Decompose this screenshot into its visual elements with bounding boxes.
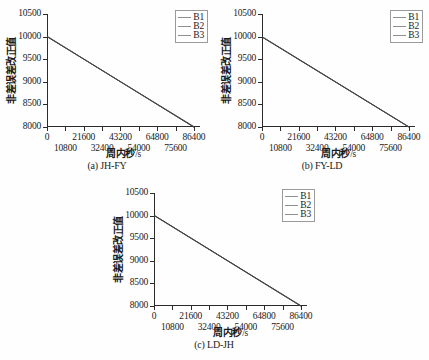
x-tick-label: 21600 bbox=[287, 133, 310, 143]
x-tick-label: 0 bbox=[45, 133, 50, 143]
x-tick-label: 21600 bbox=[72, 133, 95, 143]
x-tick-label: 64800 bbox=[253, 312, 276, 322]
x-tick bbox=[227, 306, 228, 310]
y-tick-label: 8000 bbox=[23, 122, 41, 132]
legend-line-icon bbox=[285, 214, 298, 215]
series-line bbox=[262, 37, 409, 127]
legend-line-icon bbox=[393, 26, 406, 27]
y-tick bbox=[258, 59, 262, 60]
x-tick-label: 64800 bbox=[361, 133, 384, 143]
legend-line-icon bbox=[393, 17, 406, 18]
x-tick bbox=[139, 127, 140, 131]
x-axis-title-a: 周内秒/s bbox=[47, 145, 200, 160]
x-tick bbox=[246, 306, 247, 310]
x-tick-label: 86400 bbox=[182, 133, 205, 143]
y-tick-label: 9000 bbox=[130, 256, 148, 266]
legend-b: B1 B2 B3 bbox=[390, 10, 423, 43]
figure-root: 非差误差改正值 80008500900095001000010500010800… bbox=[0, 0, 429, 360]
legend-label: B3 bbox=[300, 210, 311, 219]
legend-a: B1 B2 B3 bbox=[175, 10, 208, 43]
legend-line-icon bbox=[178, 26, 191, 27]
subfigure-b: 非差误差改正值 80008500900095001000010500010800… bbox=[215, 0, 429, 180]
y-tick bbox=[43, 14, 47, 15]
y-tick-label: 8000 bbox=[130, 301, 148, 311]
x-tick bbox=[299, 127, 300, 131]
y-tick-label: 9500 bbox=[238, 54, 256, 64]
y-tick bbox=[43, 82, 47, 83]
subfigure-a: 非差误差改正值 80008500900095001000010500010800… bbox=[0, 0, 214, 180]
x-tick bbox=[391, 127, 392, 131]
y-tick-label: 10000 bbox=[233, 32, 256, 42]
y-tick-label: 10000 bbox=[125, 211, 148, 221]
y-tick-label: 10500 bbox=[233, 9, 256, 19]
x-tick bbox=[335, 127, 336, 131]
x-tick bbox=[264, 306, 265, 310]
x-tick-label: 0 bbox=[260, 133, 265, 143]
legend-line-icon bbox=[178, 17, 191, 18]
x-tick-label: 0 bbox=[152, 312, 157, 322]
y-tick-label: 9000 bbox=[238, 77, 256, 87]
x-tick bbox=[47, 127, 48, 131]
y-tick bbox=[150, 238, 154, 239]
y-tick bbox=[258, 14, 262, 15]
x-tick-label: 21600 bbox=[179, 312, 202, 322]
x-tick bbox=[172, 306, 173, 310]
y-tick bbox=[43, 59, 47, 60]
y-tick-label: 9500 bbox=[23, 54, 41, 64]
y-tick bbox=[150, 283, 154, 284]
legend-row: B3 bbox=[393, 31, 419, 40]
y-tick-label: 10500 bbox=[18, 9, 41, 19]
y-tick bbox=[43, 104, 47, 105]
x-tick-label: 43200 bbox=[324, 133, 347, 143]
y-tick bbox=[258, 37, 262, 38]
x-tick bbox=[209, 306, 210, 310]
legend-line-icon bbox=[393, 35, 406, 36]
x-tick bbox=[154, 306, 155, 310]
y-tick-label: 9000 bbox=[23, 77, 41, 87]
x-tick bbox=[191, 306, 192, 310]
x-tick bbox=[65, 127, 66, 131]
y-tick bbox=[150, 216, 154, 217]
x-tick bbox=[354, 127, 355, 131]
x-axis-unit-a: /s bbox=[135, 149, 141, 159]
legend-line-icon bbox=[285, 205, 298, 206]
x-tick bbox=[283, 306, 284, 310]
x-tick bbox=[176, 127, 177, 131]
x-tick bbox=[280, 127, 281, 131]
y-tick-label: 10000 bbox=[18, 32, 41, 42]
legend-c: B1 B2 B3 bbox=[282, 189, 315, 222]
x-tick bbox=[301, 306, 302, 310]
x-tick bbox=[194, 127, 195, 131]
caption-a: (a) JH-FY bbox=[0, 160, 214, 171]
y-axis-title-a: 非差误差改正值 bbox=[3, 14, 17, 127]
caption-c: (c) LD-JH bbox=[107, 339, 321, 350]
series-line bbox=[47, 36, 194, 127]
x-axis-unit-b: /s bbox=[350, 149, 356, 159]
y-axis-title-c: 非差误差改正值 bbox=[110, 193, 124, 306]
x-tick bbox=[317, 127, 318, 131]
x-tick bbox=[120, 127, 121, 131]
x-axis-unit-c: /s bbox=[242, 328, 248, 338]
x-tick bbox=[157, 127, 158, 131]
x-tick-label: 43200 bbox=[109, 133, 132, 143]
legend-row: B3 bbox=[178, 31, 204, 40]
y-tick-label: 8500 bbox=[130, 279, 148, 289]
x-tick bbox=[102, 127, 103, 131]
legend-row: B3 bbox=[285, 210, 311, 219]
x-tick-label: 86400 bbox=[289, 312, 312, 322]
y-axis-title-b: 非差误差改正值 bbox=[218, 14, 232, 127]
x-axis-title-c: 周内秒/s bbox=[154, 324, 307, 339]
y-tick bbox=[150, 261, 154, 262]
x-tick bbox=[262, 127, 263, 131]
x-tick-label: 64800 bbox=[146, 133, 169, 143]
x-tick bbox=[84, 127, 85, 131]
y-tick-label: 8500 bbox=[238, 100, 256, 110]
legend-label: B3 bbox=[408, 31, 419, 40]
series-line bbox=[154, 216, 301, 307]
x-axis-title-b: 周内秒/s bbox=[262, 145, 415, 160]
legend-line-icon bbox=[285, 196, 298, 197]
y-tick bbox=[258, 104, 262, 105]
x-tick-label: 86400 bbox=[397, 133, 420, 143]
x-tick bbox=[372, 127, 373, 131]
y-tick bbox=[150, 193, 154, 194]
